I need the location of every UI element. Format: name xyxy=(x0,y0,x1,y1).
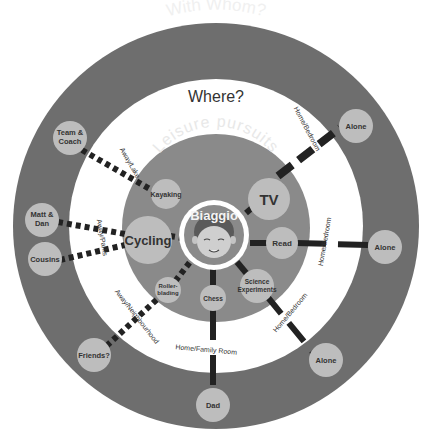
person-alone-science[interactable]: Alone xyxy=(309,343,343,377)
center-name: Biaggio xyxy=(190,208,238,223)
person-cousins[interactable]: Cousins xyxy=(28,242,62,276)
outer-ring-title: With Whom? xyxy=(164,0,268,20)
svg-text:Alone: Alone xyxy=(346,122,367,131)
person-matt-dan[interactable]: Matt & Dan xyxy=(25,203,59,237)
leisure-ecomap-diagram: With Whom? Where? Leisure pursuits Away/… xyxy=(0,0,431,446)
child-face-icon xyxy=(197,226,231,258)
svg-text:Science: Science xyxy=(245,278,270,285)
svg-text:Friends?: Friends? xyxy=(78,351,110,360)
svg-text:Experiments: Experiments xyxy=(237,286,276,294)
svg-text:TV: TV xyxy=(259,191,278,208)
svg-text:Roller-: Roller- xyxy=(158,283,177,289)
svg-text:Dad: Dad xyxy=(206,401,221,410)
svg-text:blading: blading xyxy=(157,290,179,296)
svg-text:Team &: Team & xyxy=(57,128,84,137)
person-alone-read[interactable]: Alone xyxy=(368,230,402,264)
person-team-coach[interactable]: Team & Coach xyxy=(53,121,87,155)
person-alone-tv[interactable]: Alone xyxy=(339,109,373,143)
svg-text:Alone: Alone xyxy=(316,356,337,365)
center-avatar: Biaggio xyxy=(179,200,249,270)
activity-tv[interactable]: TV xyxy=(248,178,290,220)
activity-chess[interactable]: Chess xyxy=(200,285,226,311)
activity-cycling[interactable]: Cycling xyxy=(124,216,172,264)
svg-text:Dan: Dan xyxy=(35,219,50,228)
person-dad[interactable]: Dad xyxy=(196,388,230,422)
svg-text:Matt &: Matt & xyxy=(31,210,54,219)
svg-text:Alone: Alone xyxy=(375,243,396,252)
svg-text:Cycling: Cycling xyxy=(125,233,172,248)
svg-text:Chess: Chess xyxy=(203,295,223,302)
middle-ring-title: Where? xyxy=(188,88,244,105)
svg-text:Cousins: Cousins xyxy=(30,255,60,264)
svg-text:Read: Read xyxy=(272,239,292,248)
person-friends[interactable]: Friends? xyxy=(77,338,111,372)
activity-rollerblading[interactable]: Roller- blading xyxy=(155,277,181,303)
activity-read[interactable]: Read xyxy=(266,227,298,259)
svg-text:Coach: Coach xyxy=(59,137,82,146)
svg-text:Kayaking: Kayaking xyxy=(150,191,181,199)
